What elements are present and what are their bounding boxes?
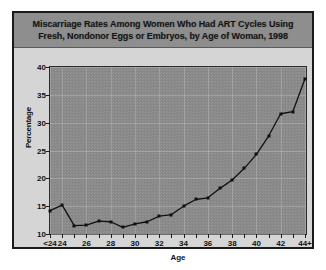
data-point-marker — [121, 226, 124, 229]
data-point-marker — [219, 187, 222, 190]
x-tick-mark — [74, 234, 75, 238]
data-point-marker — [206, 196, 209, 199]
x-tick-label: 28 — [106, 239, 115, 248]
data-point-marker — [267, 135, 270, 138]
chart-figure: Miscarriage Rates Among Women Who Had AR… — [12, 11, 314, 249]
plot-area: 10152025303540 <242426283032343638404244… — [49, 66, 307, 235]
x-tick-label: 44+ — [298, 239, 312, 248]
y-tick-label: 30 — [37, 118, 46, 127]
x-tick-mark — [147, 234, 148, 238]
y-tick-label: 35 — [37, 90, 46, 99]
x-axis-label: Age — [49, 253, 307, 262]
y-axis-label: Percentage — [24, 93, 33, 163]
data-point-marker — [146, 220, 149, 223]
x-tick-mark — [196, 234, 197, 238]
data-point-marker — [194, 198, 197, 201]
data-point-marker — [182, 205, 185, 208]
data-point-marker — [49, 209, 52, 212]
x-tick-mark — [305, 234, 306, 238]
x-tick-label: 30 — [131, 239, 140, 248]
x-tick-mark — [293, 234, 294, 238]
data-point-marker — [255, 153, 258, 156]
x-tick-mark — [50, 234, 51, 238]
data-point-marker — [109, 220, 112, 223]
data-point-marker — [61, 204, 64, 207]
x-tick-mark — [269, 234, 270, 238]
x-tick-mark — [256, 234, 257, 238]
y-tick-label: 10 — [37, 230, 46, 239]
data-point-marker — [291, 110, 294, 113]
x-tick-mark — [232, 234, 233, 238]
x-tick-mark — [184, 234, 185, 238]
y-tick-label: 20 — [37, 174, 46, 183]
x-tick-mark — [99, 234, 100, 238]
data-point-marker — [170, 213, 173, 216]
x-tick-label: <24 — [43, 239, 57, 248]
x-tick-label: 42 — [276, 239, 285, 248]
data-point-marker — [85, 224, 88, 227]
y-tick-label: 25 — [37, 146, 46, 155]
x-tick-mark — [244, 234, 245, 238]
data-point-marker — [73, 224, 76, 227]
chart-title-band: Miscarriage Rates Among Women Who Had AR… — [14, 13, 312, 48]
x-tick-mark — [123, 234, 124, 238]
data-point-marker — [158, 215, 161, 218]
x-tick-mark — [220, 234, 221, 238]
data-point-marker — [134, 222, 137, 225]
data-point-marker — [231, 179, 234, 182]
x-tick-mark — [111, 234, 112, 238]
x-tick-label: 24 — [58, 239, 67, 248]
x-tick-mark — [86, 234, 87, 238]
chart-canvas: Percentage 10152025303540 <2424262830323… — [14, 48, 312, 247]
x-tick-label: 40 — [252, 239, 261, 248]
data-point-marker — [304, 77, 307, 80]
data-point-marker — [279, 112, 282, 115]
x-tick-label: 34 — [179, 239, 188, 248]
x-tick-mark — [208, 234, 209, 238]
series-line — [50, 67, 306, 234]
x-tick-label: 26 — [82, 239, 91, 248]
x-tick-mark — [62, 234, 63, 238]
x-tick-label: 32 — [155, 239, 164, 248]
x-tick-label: 36 — [203, 239, 212, 248]
chart-title-line-1: Miscarriage Rates Among Women Who Had AR… — [33, 18, 294, 30]
x-tick-mark — [159, 234, 160, 238]
y-tick-label: 15 — [37, 202, 46, 211]
y-tick-label: 40 — [37, 63, 46, 72]
x-tick-mark — [135, 234, 136, 238]
x-tick-label: 38 — [228, 239, 237, 248]
x-tick-mark — [171, 234, 172, 238]
chart-title-line-2: Fresh, Nondonor Eggs or Embryos, by Age … — [38, 30, 288, 42]
x-tick-mark — [281, 234, 282, 238]
data-point-marker — [97, 220, 100, 223]
data-point-marker — [243, 167, 246, 170]
